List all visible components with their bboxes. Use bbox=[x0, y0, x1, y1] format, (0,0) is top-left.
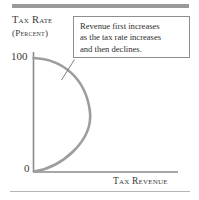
annotation-callout-text: Revenue first increases as the tax rate … bbox=[80, 21, 188, 55]
y-axis-tick-0: 0 bbox=[24, 163, 30, 174]
laffer-curve-path bbox=[34, 58, 91, 172]
annotation-callout-box: Revenue first increases as the tax rate … bbox=[73, 16, 190, 58]
x-axis-title: Tax Revenue bbox=[113, 177, 168, 187]
y-axis-unit-label: (Percent) bbox=[12, 29, 48, 38]
y-axis-title: Tax Rate bbox=[12, 15, 53, 26]
annotation-leader-line bbox=[62, 60, 75, 81]
laffer-curve-figure: Tax Rate (Percent) 100 0 Tax Revenue Rev… bbox=[0, 0, 199, 200]
y-axis-tick-100: 100 bbox=[11, 51, 28, 62]
